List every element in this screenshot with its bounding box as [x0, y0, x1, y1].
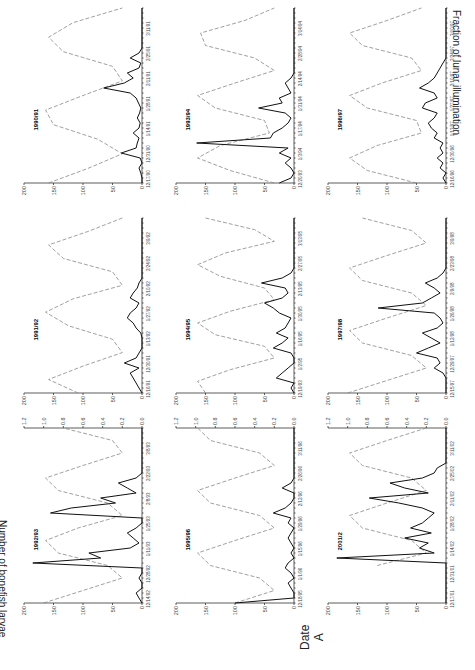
- svg-text:3/9/92: 3/9/92: [146, 232, 151, 245]
- svg-text:50: 50: [414, 396, 420, 402]
- svg-text:150: 150: [355, 396, 361, 405]
- svg-text:0.2: 0.2: [119, 417, 125, 425]
- svg-text:200: 200: [173, 186, 179, 195]
- svg-text:0: 0: [443, 186, 449, 189]
- svg-text:0: 0: [139, 606, 145, 609]
- svg-text:2/10/92: 2/10/92: [146, 281, 151, 297]
- svg-text:0.4: 0.4: [100, 417, 106, 425]
- panel-1990-91: 05010015020012/17/9012/31/901/14/911/28/…: [18, 0, 170, 205]
- svg-text:200: 200: [21, 396, 27, 405]
- svg-text:12/14/92: 12/14/92: [146, 590, 151, 608]
- svg-text:0.0: 0.0: [291, 417, 297, 425]
- svg-text:12/20/93: 12/20/93: [298, 170, 303, 188]
- svg-text:1/13/92: 1/13/92: [146, 331, 151, 347]
- lunar-illumination-line: [350, 8, 422, 183]
- lunar-illumination-line: [348, 218, 427, 393]
- svg-text:0.2: 0.2: [271, 417, 277, 425]
- svg-text:150: 150: [355, 606, 361, 615]
- svg-text:0.4: 0.4: [404, 417, 410, 425]
- svg-text:200: 200: [21, 606, 27, 615]
- svg-text:1.2: 1.2: [325, 417, 331, 425]
- svg-text:3/11/02: 3/11/02: [450, 441, 455, 456]
- svg-text:50: 50: [110, 606, 116, 612]
- svg-text:0: 0: [291, 606, 297, 609]
- larvae-count-line: [197, 8, 294, 183]
- panel-title: 1990/91: [33, 108, 39, 130]
- svg-text:12/16/96: 12/16/96: [450, 170, 455, 188]
- svg-text:100: 100: [384, 606, 390, 615]
- svg-text:1/12/98: 1/12/98: [450, 331, 455, 347]
- svg-text:100: 100: [80, 186, 86, 195]
- y-axis-label-right: Fraction of lunar illumination: [451, 10, 462, 135]
- svg-text:100: 100: [80, 606, 86, 615]
- svg-text:1/3/94: 1/3/94: [298, 147, 303, 160]
- larvae-count-line: [235, 428, 294, 603]
- svg-text:3/13/95: 3/13/95: [298, 230, 303, 246]
- svg-text:1/27/92: 1/27/92: [146, 306, 151, 322]
- svg-text:0: 0: [443, 606, 449, 609]
- svg-text:1/29/96: 1/29/96: [298, 516, 303, 532]
- svg-text:1.0: 1.0: [345, 417, 351, 425]
- svg-text:100: 100: [384, 396, 390, 405]
- panel-title: 1996/97: [337, 108, 343, 130]
- svg-text:2/26/96: 2/26/96: [298, 466, 303, 482]
- larvae-count-line: [378, 218, 446, 393]
- svg-text:3/9/98: 3/9/98: [450, 232, 455, 245]
- panel-1997-98: 05010015020012/15/9712/29/971/12/981/26/…: [322, 200, 474, 415]
- svg-text:0.8: 0.8: [364, 417, 370, 425]
- svg-text:1/31/94: 1/31/94: [298, 96, 303, 112]
- svg-text:12/30/91: 12/30/91: [146, 355, 151, 373]
- svg-text:150: 150: [203, 186, 209, 195]
- svg-text:100: 100: [80, 396, 86, 405]
- svg-text:3/8/93: 3/8/93: [146, 442, 151, 455]
- svg-text:0: 0: [291, 396, 297, 399]
- svg-text:50: 50: [262, 606, 268, 612]
- svg-text:50: 50: [110, 186, 116, 192]
- y-axis-label-left: Number of bonefish larvae: [0, 520, 8, 637]
- panel-1992-93: 0501001502000.00.20.40.60.81.01.212/14/9…: [18, 410, 170, 625]
- svg-text:12/31/01: 12/31/01: [450, 565, 455, 583]
- svg-text:1/28/02: 1/28/02: [450, 516, 455, 532]
- panel-title: 1992/93: [33, 528, 39, 550]
- lunar-illumination-line: [44, 428, 123, 603]
- svg-text:150: 150: [203, 606, 209, 615]
- svg-text:0.6: 0.6: [232, 417, 238, 425]
- panel-2001-2: 0501001502000.00.20.40.60.81.01.212/17/0…: [322, 410, 474, 625]
- svg-text:2/11/02: 2/11/02: [450, 491, 455, 506]
- svg-text:12/28/92: 12/28/92: [146, 565, 151, 583]
- svg-text:1.2: 1.2: [21, 417, 27, 425]
- svg-text:1/14/02: 1/14/02: [450, 541, 455, 557]
- svg-text:150: 150: [51, 396, 57, 405]
- panel-1994-95: 05010015020012/19/931/2/951/16/951/30/95…: [170, 200, 322, 415]
- panel-title: 1994/95: [185, 318, 191, 340]
- svg-text:1/17/94: 1/17/94: [298, 121, 303, 137]
- lunar-illumination-line: [198, 428, 275, 603]
- svg-text:1/1/96: 1/1/96: [298, 567, 303, 580]
- svg-text:12/15/97: 12/15/97: [450, 380, 455, 398]
- svg-text:1/2/95: 1/2/95: [298, 357, 303, 370]
- svg-text:100: 100: [232, 606, 238, 615]
- svg-text:150: 150: [355, 186, 361, 195]
- svg-text:50: 50: [262, 186, 268, 192]
- svg-text:0.4: 0.4: [252, 417, 258, 425]
- svg-text:1/30/95: 1/30/95: [298, 306, 303, 322]
- larvae-count-line: [104, 8, 142, 183]
- svg-text:100: 100: [232, 396, 238, 405]
- lunar-illumination-line: [198, 8, 275, 183]
- svg-text:3/11/91: 3/11/91: [146, 21, 151, 36]
- svg-text:1/11/93: 1/11/93: [146, 541, 151, 556]
- panel-title: 1997/98: [337, 318, 343, 340]
- x-axis-label: DateA: [298, 625, 326, 650]
- svg-text:1/16/95: 1/16/95: [298, 331, 303, 347]
- svg-text:0.2: 0.2: [423, 417, 429, 425]
- svg-text:200: 200: [173, 396, 179, 405]
- svg-text:50: 50: [110, 396, 116, 402]
- svg-text:0.6: 0.6: [80, 417, 86, 425]
- svg-text:2/27/95: 2/27/95: [298, 256, 303, 272]
- svg-text:50: 50: [414, 606, 420, 612]
- larvae-count-line: [420, 8, 447, 183]
- svg-text:2/22/93: 2/22/93: [146, 466, 151, 482]
- svg-text:12/19/93: 12/19/93: [298, 380, 303, 398]
- svg-text:0: 0: [139, 186, 145, 189]
- svg-text:150: 150: [51, 606, 57, 615]
